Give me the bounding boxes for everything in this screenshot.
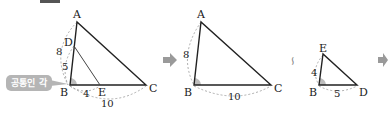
length-bc: 10 <box>228 91 241 102</box>
vertex-e: E <box>319 42 327 55</box>
figure1-triangle-abc: A B C D E 8 5 4 10 <box>50 8 157 109</box>
similar-triangles-diagram: A B C D E 8 5 4 10 A B C 8 10 ∽ E B D 4 … <box>0 0 388 116</box>
figure3-triangle-ebd: E B D 4 5 <box>309 42 368 99</box>
vertex-b: B <box>309 86 317 99</box>
figure2-triangle-abc: A B C 8 10 <box>183 8 282 102</box>
length-be: 4 <box>83 88 89 99</box>
similar-symbol: ∽ <box>286 56 300 66</box>
length-ab: 8 <box>56 46 62 57</box>
arrow-right-icon <box>378 53 388 67</box>
vertex-a: A <box>72 8 82 21</box>
vertex-b: B <box>60 86 68 99</box>
common-angle-callout: 공통인 각 <box>6 75 52 91</box>
length-bc: 10 <box>101 98 114 109</box>
arrow-right-icon <box>163 53 177 67</box>
length-bd: 5 <box>62 61 68 72</box>
vertex-c: C <box>149 82 157 95</box>
vertex-d: D <box>359 86 368 99</box>
length-bd: 5 <box>334 88 340 99</box>
length-ab: 8 <box>183 49 189 60</box>
vertex-d: D <box>64 36 73 49</box>
length-be: 4 <box>311 67 317 78</box>
vertex-b: B <box>184 86 192 99</box>
vertex-c: C <box>274 82 282 95</box>
arc-ab <box>61 22 77 85</box>
vertex-a: A <box>196 8 206 21</box>
